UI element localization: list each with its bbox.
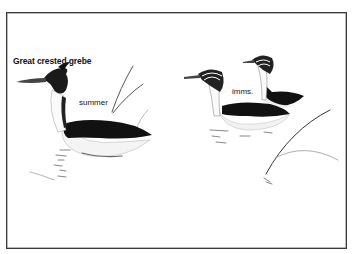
plate-title: Great crested grebe xyxy=(13,56,91,66)
reeds-left xyxy=(112,66,148,130)
label-summer: summer xyxy=(79,98,108,107)
immature-front-figure xyxy=(184,69,290,143)
adult-grebe-figure xyxy=(16,62,152,180)
immature-back-figure xyxy=(243,55,304,108)
grebe-illustration xyxy=(0,0,354,254)
label-immatures: imms. xyxy=(232,87,253,96)
